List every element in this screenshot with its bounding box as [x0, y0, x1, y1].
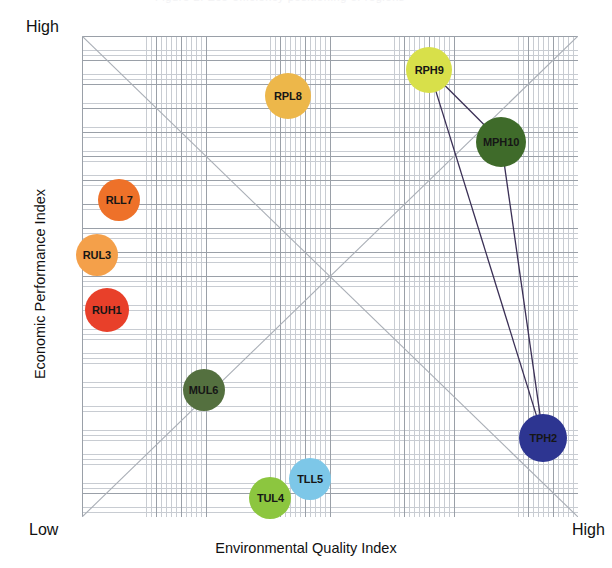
bubble-label-tph2: TPH2 — [529, 432, 557, 444]
bubble-tll5[interactable]: TLL5 — [289, 458, 331, 500]
connector-MPH10-TPH2 — [501, 142, 543, 438]
bubble-chart-figure: Figure 2. Eco-efficiency positioning of … — [0, 0, 612, 568]
bubble-label-tll5: TLL5 — [297, 473, 323, 485]
bubble-rul3[interactable]: RUL3 — [76, 234, 118, 276]
bubble-label-mul6: MUL6 — [189, 384, 219, 396]
bubble-label-tul4: TUL4 — [257, 492, 284, 504]
bubble-label-rpl8: RPL8 — [274, 90, 302, 102]
clipped-title-text: Figure 2. Eco-efficiency positioning of … — [155, 0, 405, 3]
bubble-label-rph9: RPH9 — [415, 64, 444, 76]
x-axis-title: Environmental Quality Index — [0, 540, 612, 556]
diagonal-reference-lines — [82, 36, 578, 517]
plot-area: RPH9RPL8MPH10RLL7RUL3RUH1MUL6TPH2TLL5TUL… — [82, 36, 578, 517]
bubble-label-rll7: RLL7 — [106, 194, 133, 206]
bubble-mph10[interactable]: MPH10 — [476, 117, 526, 167]
x-axis-high-label: High — [572, 521, 605, 539]
bubble-label-rul3: RUL3 — [83, 249, 111, 261]
bubble-mul6[interactable]: MUL6 — [183, 369, 225, 411]
bubble-tul4[interactable]: TUL4 — [249, 477, 291, 519]
bubble-label-ruh1: RUH1 — [92, 304, 122, 316]
bubble-rpl8[interactable]: RPL8 — [265, 73, 311, 119]
connection-lines — [82, 36, 578, 517]
clipped-title-strip: Figure 2. Eco-efficiency positioning of … — [0, 0, 612, 12]
diagonal-line-2 — [82, 36, 578, 517]
y-axis-title: Economic Performance Index — [30, 0, 50, 568]
bubble-tph2[interactable]: TPH2 — [519, 414, 567, 462]
bubble-rph9[interactable]: RPH9 — [406, 47, 452, 93]
diagonal-line-1 — [82, 36, 578, 517]
bubble-ruh1[interactable]: RUH1 — [85, 288, 129, 332]
bubble-rll7[interactable]: RLL7 — [98, 179, 140, 221]
bubble-label-mph10: MPH10 — [483, 136, 519, 148]
